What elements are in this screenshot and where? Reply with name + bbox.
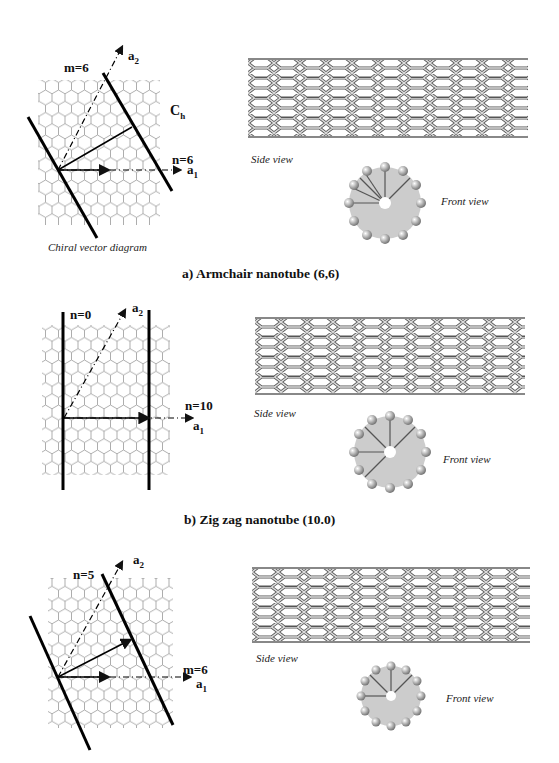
nanotube-front-view-chiral (355, 660, 435, 740)
side-view-label: Side view (251, 153, 293, 165)
index-n0-label: n=0 (70, 307, 91, 323)
nanotube-side-view-armchair (248, 58, 536, 138)
front-view-label: Front view (443, 453, 491, 465)
index-n10-label: n=10 (185, 398, 213, 414)
a2-label: a2 (128, 48, 139, 66)
a2-label: a2 (133, 552, 144, 570)
nanotube-side-view-chiral (252, 567, 542, 643)
side-view-label: Side view (256, 652, 298, 664)
chiral-vector-label: Ch (170, 103, 185, 121)
a1-label: a1 (196, 676, 207, 694)
panel-caption: b) Zig zag nanotube (10.0) (184, 512, 335, 528)
side-view-label: Side view (254, 407, 296, 419)
nanotube-side-view-zigzag (255, 317, 535, 395)
chiral-vector-diagram-zigzag (0, 270, 240, 510)
a1-label: a1 (187, 162, 198, 180)
front-view-label: Front view (446, 692, 494, 704)
index-m-label: m=6 (64, 60, 89, 76)
front-view-label: Front view (441, 195, 489, 207)
a1-label: a1 (193, 418, 204, 436)
nanotube-front-view-armchair (345, 158, 435, 248)
a2-label: a2 (132, 300, 143, 318)
chiral-vector-diagram-armchair (0, 0, 240, 240)
chiral-vector-diagram-chiral (0, 530, 240, 763)
diagram-title: Chiral vector diagram (48, 241, 147, 253)
nanotube-front-view-zigzag (345, 407, 435, 497)
index-n5-label: n=5 (73, 567, 94, 583)
